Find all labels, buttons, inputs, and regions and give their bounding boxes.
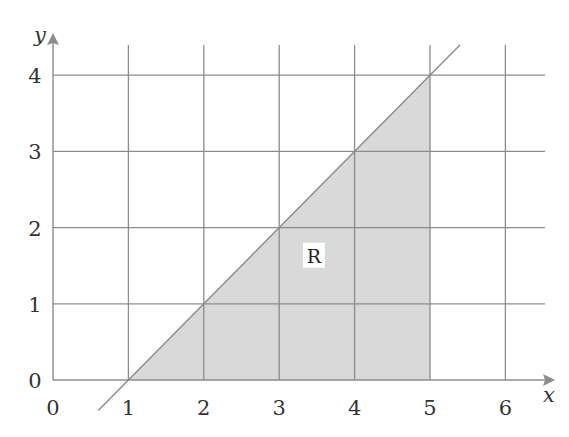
region-label: R	[307, 245, 322, 267]
x-tick-label: 4	[348, 396, 361, 420]
x-tick-label: 3	[273, 396, 286, 420]
y-tick-label: 4	[28, 64, 41, 88]
y-tick-label: 2	[28, 217, 41, 241]
x-axis-label: x	[543, 383, 555, 407]
x-tick-label: 6	[499, 396, 512, 420]
x-tick-label: 5	[423, 396, 436, 420]
y-tick-label: 3	[28, 140, 41, 164]
y-tick-label: 1	[28, 293, 41, 317]
x-tick-label: 1	[122, 396, 135, 420]
x-tick-label: 2	[197, 396, 210, 420]
x-tick-label: 0	[46, 396, 59, 420]
y-axis-label: y	[33, 23, 47, 47]
y-tick-label: 0	[28, 369, 41, 393]
region-plot: 012345601234xyR	[0, 0, 569, 437]
